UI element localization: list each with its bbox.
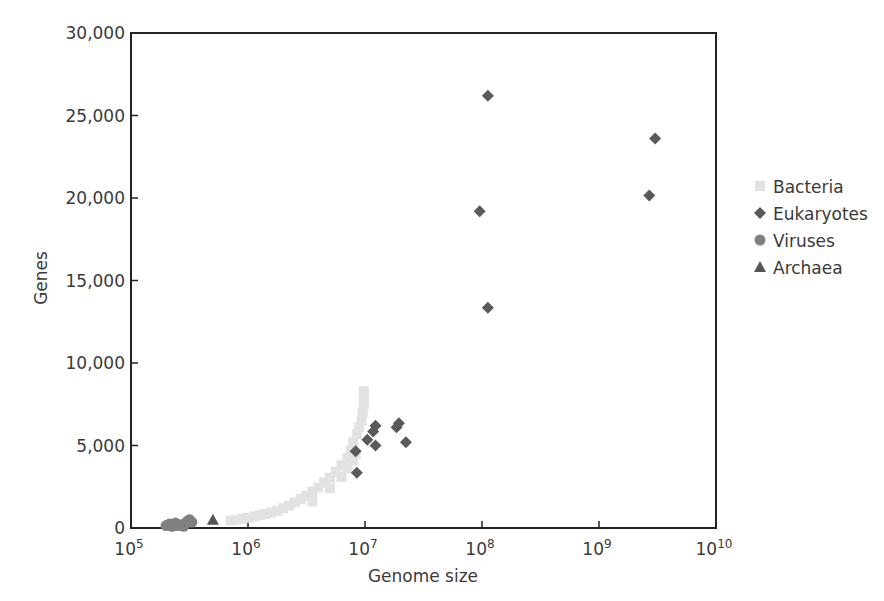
legend-label: Eukaryotes	[773, 204, 868, 224]
x-tick-label: 106	[231, 537, 260, 559]
y-axis-title: Genes	[31, 251, 51, 305]
data-point	[400, 436, 412, 448]
x-tick-label: 105	[114, 537, 143, 559]
legend-item-viruses: Viruses	[755, 231, 836, 251]
data-point	[482, 90, 494, 102]
data-point	[482, 302, 494, 314]
x-axis: 1051061071081091010	[114, 521, 732, 559]
triangle-icon	[754, 261, 766, 272]
data-point	[207, 514, 219, 525]
legend-label: Bacteria	[773, 177, 844, 197]
plot-frame	[131, 33, 716, 528]
legend-item-bacteria: Bacteria	[755, 177, 844, 197]
series-bacteria	[225, 386, 368, 526]
y-tick-label: 5,000	[76, 436, 125, 456]
legend: BacteriaEukaryotesVirusesArchaea	[754, 177, 868, 278]
data-point	[359, 386, 369, 396]
x-tick-label: 108	[465, 537, 494, 559]
y-tick-label: 10,000	[66, 353, 125, 373]
data-point	[307, 497, 317, 507]
series-archaea	[207, 514, 219, 525]
y-tick-label: 0	[114, 518, 125, 538]
data-point	[643, 190, 655, 202]
data-point	[649, 133, 661, 145]
x-tick-label: 107	[348, 537, 377, 559]
x-axis-title: Genome size	[368, 566, 478, 586]
x-tick-label: 1010	[696, 537, 733, 559]
series-viruses	[161, 514, 198, 532]
legend-item-archaea: Archaea	[754, 258, 843, 278]
data-point	[166, 521, 177, 532]
y-axis: 05,00010,00015,00020,00025,00030,000	[66, 23, 138, 538]
y-tick-label: 25,000	[66, 106, 125, 126]
square-icon	[755, 181, 765, 191]
series-eukaryotes	[350, 90, 662, 479]
legend-label: Viruses	[773, 231, 835, 251]
data-point	[325, 483, 335, 493]
scatter-chart: 05,00010,00015,00020,00025,00030,000 105…	[0, 0, 884, 601]
data-point	[474, 205, 486, 217]
data-points	[161, 90, 662, 532]
y-tick-label: 15,000	[66, 271, 125, 291]
legend-item-eukaryotes: Eukaryotes	[754, 204, 868, 224]
circle-icon	[755, 235, 766, 246]
legend-label: Archaea	[773, 258, 843, 278]
data-point	[178, 521, 189, 532]
data-point	[351, 467, 363, 479]
y-tick-label: 20,000	[66, 188, 125, 208]
x-tick-label: 109	[582, 537, 611, 559]
y-tick-label: 30,000	[66, 23, 125, 43]
diamond-icon	[754, 207, 766, 219]
